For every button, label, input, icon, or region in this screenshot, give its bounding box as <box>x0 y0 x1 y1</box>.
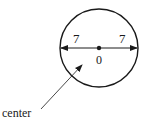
center-pointer-label: center <box>2 106 31 120</box>
circle-diagram: 7 7 0 center <box>0 0 148 125</box>
center-value-label: 0 <box>96 53 102 67</box>
center-pointer-arrow <box>41 65 82 109</box>
center-point <box>97 46 101 50</box>
left-radius-label: 7 <box>73 31 80 46</box>
right-radius-label: 7 <box>119 31 126 46</box>
